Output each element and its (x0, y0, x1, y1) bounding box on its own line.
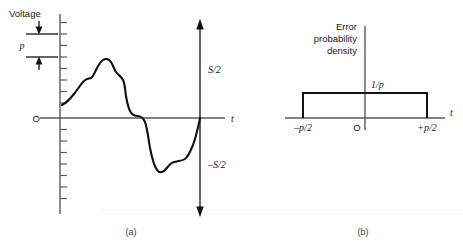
panel-a: p Voltage O t S/2 –S/2 (9, 8, 234, 217)
origin-label-b: O (353, 122, 360, 133)
time-axis-label-a: t (231, 113, 234, 124)
p-interval-marker (26, 21, 58, 70)
right-bound-label: +p/2 (417, 122, 437, 133)
p-interval-label: p (19, 40, 25, 51)
upper-span-label: S/2 (208, 64, 221, 75)
figure-canvas: p Voltage O t S/2 –S/2 (a) (0, 0, 463, 249)
lower-span-label: –S/2 (207, 159, 226, 170)
density-label-line1: Error (336, 21, 357, 32)
caption-a: (a) (126, 227, 137, 237)
voltage-axis-ticks (60, 23, 67, 199)
voltage-axis-label: Voltage (9, 8, 41, 19)
density-label-line3: density (327, 45, 357, 56)
left-bound-label: –p/2 (293, 122, 312, 133)
density-label-line2: probability (314, 33, 358, 44)
panel-b: Error probability density 1/p –p/2 O +p/… (285, 21, 453, 133)
error-voltage-waveform (62, 59, 200, 172)
origin-label-a: O (33, 113, 40, 124)
density-height-label: 1/p (371, 79, 384, 90)
caption-b: (b) (358, 227, 369, 237)
time-axis-label-b: t (450, 107, 453, 118)
